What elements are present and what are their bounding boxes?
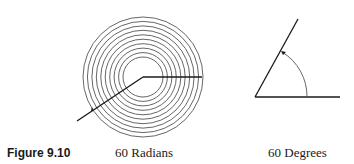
figure-caption: Figure 9.10 (7, 146, 70, 160)
radians-label: 60 Radians (115, 145, 173, 161)
degree-arc (282, 52, 307, 97)
degree-terminal-ray (255, 19, 298, 97)
degrees-label: 60 Degrees (268, 145, 327, 161)
figure-canvas (0, 0, 354, 164)
